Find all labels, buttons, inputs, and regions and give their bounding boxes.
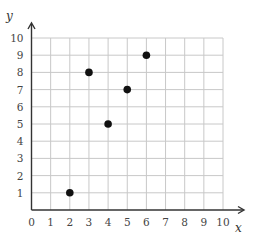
x-tick-labels: 012345678910 bbox=[28, 216, 230, 228]
y-tick-label: 8 bbox=[17, 66, 24, 78]
y-tick-label: 1 bbox=[17, 187, 24, 199]
data-point bbox=[123, 86, 131, 94]
x-tick-label: 4 bbox=[105, 216, 112, 228]
y-tick-label: 4 bbox=[17, 135, 24, 147]
y-tick-label: 10 bbox=[10, 32, 23, 44]
grid-lines bbox=[32, 38, 224, 210]
x-tick-label: 3 bbox=[86, 216, 93, 228]
x-tick-label: 5 bbox=[124, 216, 131, 228]
x-tick-label: 9 bbox=[201, 216, 208, 228]
y-tick-label: 2 bbox=[17, 170, 24, 182]
y-tick-label: 9 bbox=[17, 49, 24, 61]
scatter-chart: 012345678910 12345678910 x y bbox=[0, 0, 254, 243]
x-tick-label: 0 bbox=[28, 216, 35, 228]
x-tick-label: 8 bbox=[181, 216, 188, 228]
data-point bbox=[85, 69, 93, 77]
x-tick-label: 10 bbox=[216, 216, 229, 228]
x-tick-label: 6 bbox=[143, 216, 150, 228]
data-point bbox=[104, 120, 112, 128]
y-tick-label: 5 bbox=[17, 118, 24, 130]
x-tick-label: 7 bbox=[162, 216, 169, 228]
axes bbox=[28, 23, 244, 214]
y-tick-labels: 12345678910 bbox=[10, 32, 24, 199]
x-axis-label: x bbox=[235, 221, 242, 235]
y-axis-label: y bbox=[5, 9, 13, 23]
x-tick-label: 1 bbox=[47, 216, 54, 228]
data-point bbox=[66, 189, 74, 197]
x-tick-label: 2 bbox=[66, 216, 73, 228]
y-tick-label: 7 bbox=[17, 84, 24, 96]
data-point bbox=[143, 51, 151, 59]
y-tick-label: 6 bbox=[17, 101, 24, 113]
y-tick-label: 3 bbox=[17, 152, 24, 164]
